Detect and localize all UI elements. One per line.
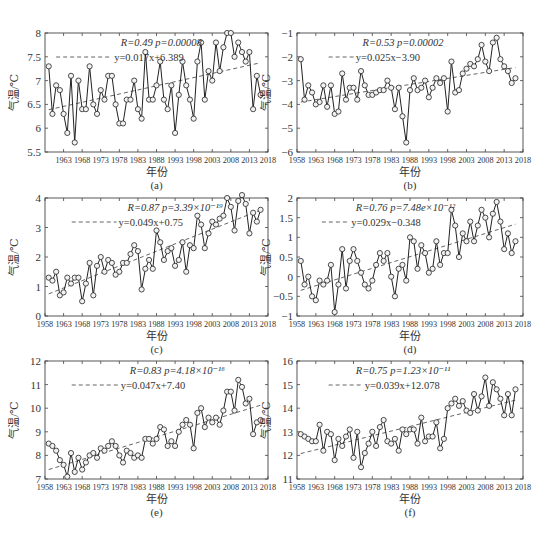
x-tick-label: 1963 (55, 320, 71, 329)
y-tick-label: 0.5 (279, 251, 293, 263)
data-point-marker (236, 377, 241, 382)
data-point-marker (158, 240, 163, 245)
data-point-marker (169, 439, 174, 444)
data-point-marker (411, 76, 416, 81)
y-tick-label: 13 (282, 426, 294, 438)
data-point-marker (239, 49, 244, 54)
data-point-marker (434, 420, 439, 425)
chart-panel-a: 5.566.577.581963196819731978198319881993… (7, 27, 276, 192)
x-tick-label: 2008 (477, 483, 493, 492)
data-point-marker (251, 432, 256, 437)
data-point-marker (191, 246, 196, 251)
data-point-marker (76, 455, 81, 460)
x-tick-label: 2008 (223, 320, 239, 329)
x-tick-label: 1968 (326, 156, 342, 165)
data-point-marker (217, 68, 222, 73)
x-tick-label: 2008 (477, 156, 493, 165)
data-point-marker (362, 83, 367, 88)
data-point-marker (184, 83, 189, 88)
data-point-marker (251, 107, 256, 112)
data-point-marker (169, 246, 174, 251)
data-point-marker (453, 223, 458, 228)
data-point-marker (445, 109, 450, 114)
data-point-marker (434, 239, 439, 244)
x-tick-label: 2008 (477, 320, 493, 329)
x-tick-label: 1968 (74, 156, 90, 165)
y-tick-label: −3 (281, 75, 293, 87)
data-point-marker (505, 391, 510, 396)
data-point-marker (505, 231, 510, 236)
y-axis-label: 气温/℃ (7, 74, 20, 111)
data-point-marker (498, 396, 503, 401)
x-tick-label: 2003 (204, 156, 220, 165)
data-point-marker (479, 394, 484, 399)
panel-label: (b) (404, 179, 417, 192)
data-point-marker (132, 243, 137, 248)
x-tick-label: 1958 (289, 483, 305, 492)
axes-frame (45, 361, 268, 479)
data-point-marker (487, 68, 492, 73)
data-point-marker (169, 83, 174, 88)
data-point-marker (498, 219, 503, 224)
data-point-marker (128, 251, 133, 256)
data-point-marker (306, 274, 311, 279)
chart-panel-d: −1−0.500.511.521958196319681973197819831… (259, 192, 531, 356)
x-tick-label: 1988 (402, 156, 418, 165)
data-point-marker (120, 460, 125, 465)
data-point-marker (438, 262, 443, 267)
data-point-marker (328, 262, 333, 267)
stats-annotation: R=0.53 p=0.00002 (362, 37, 445, 48)
data-point-marker (172, 263, 177, 268)
data-point-marker (228, 204, 233, 209)
data-point-marker (154, 436, 159, 441)
x-axis-label: 年份 (146, 165, 168, 178)
data-point-marker (91, 102, 96, 107)
data-point-marker (490, 380, 495, 385)
data-point-marker (456, 88, 461, 93)
data-point-marker (306, 83, 311, 88)
data-point-marker (336, 282, 341, 287)
data-point-marker (377, 250, 382, 255)
data-point-marker (502, 247, 507, 252)
panel-label: (c) (150, 343, 163, 356)
data-point-marker (65, 275, 70, 280)
x-tick-label: 1983 (383, 483, 399, 492)
y-tick-label: 16 (282, 355, 294, 367)
data-point-marker (102, 269, 107, 274)
y-tick-label: −5 (281, 122, 293, 134)
data-point-marker (161, 257, 166, 262)
data-point-marker (65, 130, 70, 135)
data-point-marker (411, 239, 416, 244)
data-point-marker (468, 219, 473, 224)
stats-annotation: R=0.75 p=1.23×10⁻¹¹ (355, 365, 451, 376)
data-point-marker (132, 78, 137, 83)
data-point-marker (340, 247, 345, 252)
chart-panel-c: 0123419581963196819731978198319881993199… (7, 192, 276, 356)
data-point-marker (483, 59, 488, 64)
stats-annotation: R=0.49 p=0.00008 (120, 37, 203, 48)
data-point-marker (113, 102, 118, 107)
data-point-marker (479, 207, 484, 212)
data-point-marker (46, 64, 51, 69)
data-point-marker (430, 434, 435, 439)
data-point-marker (150, 266, 155, 271)
data-point-marker (94, 111, 99, 116)
data-point-marker (389, 85, 394, 90)
data-point-marker (247, 396, 252, 401)
data-point-marker (68, 450, 73, 455)
x-tick-label: 2003 (458, 320, 474, 329)
x-tick-label: 2003 (458, 156, 474, 165)
data-point-marker (232, 408, 237, 413)
data-point-marker (239, 192, 244, 197)
data-point-marker (464, 66, 469, 71)
data-point-marker (225, 195, 230, 200)
data-point-marker (150, 97, 155, 102)
x-tick-label: 2013 (241, 156, 257, 165)
y-tick-label: −1 (281, 27, 293, 39)
y-tick-label: 9 (36, 426, 42, 438)
data-point-marker (298, 258, 303, 263)
x-tick-label: 2018 (515, 320, 531, 329)
x-tick-label: 1993 (421, 320, 437, 329)
panel-label: (f) (405, 506, 416, 519)
data-point-marker (221, 213, 226, 218)
